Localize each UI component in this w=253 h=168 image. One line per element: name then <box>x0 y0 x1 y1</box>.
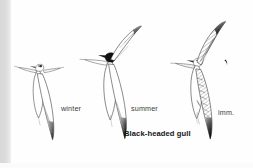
illustration-plate: winter summer imm. Black-headed gull <box>0 0 253 168</box>
species-caption: Black-headed gull <box>124 129 191 138</box>
gull-figure-winter <box>14 64 64 140</box>
gull-figure-summer <box>80 26 142 139</box>
gull-figure-imm <box>170 21 227 139</box>
page-bottom-strip <box>0 163 253 168</box>
gull-illustration-artwork <box>0 0 253 168</box>
figure-label-winter: winter <box>61 104 81 113</box>
figure-label-imm: imm. <box>218 108 234 117</box>
figure-label-summer: summer <box>131 104 158 113</box>
